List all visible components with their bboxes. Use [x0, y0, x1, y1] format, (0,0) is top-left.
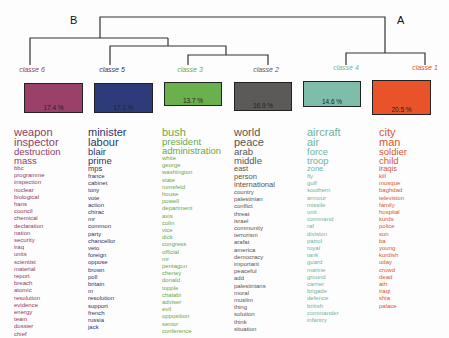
word-item: carrier: [307, 281, 341, 288]
word-item: kurds: [379, 216, 407, 223]
word-item: iraqi: [379, 288, 407, 295]
word-item: ba: [379, 238, 407, 245]
word-item: biological: [14, 194, 60, 201]
word-item: opposition: [162, 313, 221, 320]
word-item: evil: [162, 306, 221, 313]
word-item: washington: [162, 169, 221, 176]
word-item: son: [379, 231, 407, 238]
word-item: dick: [162, 234, 221, 241]
word-list-classe-6: weaponinspectordestructionmassbbcprogram…: [14, 127, 60, 338]
word-item: party: [88, 231, 127, 238]
word-item: tony: [88, 187, 127, 194]
word-item: fly: [307, 173, 341, 180]
word-item: young: [379, 245, 407, 252]
word-item: chancellor: [88, 238, 127, 245]
word-list-classe-3: bushpresidentadministrationwhitegeorgewa…: [162, 127, 221, 335]
word-item: important: [234, 261, 275, 268]
word-item: uday: [379, 259, 407, 266]
word-item: america: [234, 247, 275, 254]
word-item: vote: [88, 195, 127, 202]
word-list-classe-1: citymansoldierchildiraqiskillmosquebaghd…: [379, 127, 407, 310]
word-item: council: [14, 208, 60, 215]
word-item: veto: [88, 245, 127, 252]
word-item: arafat: [234, 239, 275, 246]
word-item: colin: [162, 220, 221, 227]
word-item: terrorism: [234, 232, 275, 239]
word-item: energy: [14, 309, 60, 316]
word-item: muslim: [234, 297, 275, 304]
word-item: hans: [14, 201, 60, 208]
word-item: atomic: [14, 287, 60, 294]
word-item: mosque: [379, 180, 407, 187]
word-item: pentagon: [162, 263, 221, 270]
word-item: missile: [307, 202, 341, 209]
word-item: moral: [234, 290, 275, 297]
word-item: bbc: [14, 165, 60, 172]
word-item: brigade: [307, 288, 341, 295]
word-item: material: [14, 266, 60, 273]
word-item: unit: [307, 209, 341, 216]
word-item: french: [88, 310, 127, 317]
word-item: scientist: [14, 259, 60, 266]
word-item: vice: [162, 227, 221, 234]
word-item: patrol: [307, 238, 341, 245]
word-item: kill: [379, 173, 407, 180]
word-item: brown: [88, 267, 127, 274]
word-item: ath: [379, 281, 407, 288]
node-label-b: B: [70, 14, 77, 26]
class-box-2: 16.9 %: [234, 82, 292, 111]
word-item: official: [162, 249, 221, 256]
c3-c2-link: [188, 55, 268, 65]
word-item: family: [379, 202, 407, 209]
word-list-classe-5: ministerlabourblairprimempsfrancecabinet…: [88, 127, 127, 331]
dendrogram-tree: [0, 0, 449, 80]
word-item: command: [307, 216, 341, 223]
word-item: cabinet: [88, 180, 127, 187]
word-item: international: [234, 181, 275, 189]
class-label-1: classe 1: [412, 64, 438, 71]
word-item: administration: [162, 146, 221, 155]
word-item: rumsfeld: [162, 184, 221, 191]
word-item: resolution: [88, 295, 127, 302]
word-item: iraq: [14, 244, 60, 251]
word-item: m: [88, 288, 127, 295]
class-box-5: 17.1 %: [94, 83, 153, 113]
word-item: palace: [379, 303, 407, 310]
word-item: department: [162, 205, 221, 212]
word-item: commander: [307, 310, 341, 317]
word-item: baghdad: [379, 187, 407, 194]
word-item: dead: [379, 274, 407, 281]
word-item: security: [14, 237, 60, 244]
word-item: conference: [162, 328, 221, 335]
word-item: donald: [162, 277, 221, 284]
class-box-6: 17.4 %: [24, 83, 83, 113]
word-item: raf: [307, 223, 341, 230]
word-item: shia: [379, 295, 407, 302]
class-label-6: classe 6: [19, 66, 45, 73]
word-item: democracy: [234, 254, 275, 261]
word-item: poll: [88, 274, 127, 281]
word-item: tank: [307, 252, 341, 259]
word-item: russia: [88, 317, 127, 324]
word-item: topple: [162, 285, 221, 292]
word-item: mr: [162, 256, 221, 263]
word-item: conflict: [234, 203, 275, 210]
word-item: adviser: [162, 299, 221, 306]
word-item: declaration: [14, 223, 60, 230]
word-item: inspection: [14, 179, 60, 186]
root-link: [100, 17, 385, 53]
word-item: community: [234, 225, 275, 232]
word-item: common: [88, 223, 127, 230]
word-item: add: [234, 275, 275, 282]
class-percent-5: 17.1 %: [113, 104, 133, 112]
word-item: gulf: [307, 180, 341, 187]
b-link: [30, 38, 168, 65]
word-item: situation: [234, 326, 275, 333]
word-item: jack: [88, 324, 127, 331]
word-list-classe-2: worldpeacearabmiddleeastpersoninternatio…: [234, 127, 275, 333]
word-item: programme: [14, 172, 60, 179]
word-item: crowd: [379, 267, 407, 274]
word-item: chalabi: [162, 292, 221, 299]
class-percent-3: 13.7 %: [183, 97, 203, 105]
class-percent-4: 14.6 %: [322, 98, 342, 106]
